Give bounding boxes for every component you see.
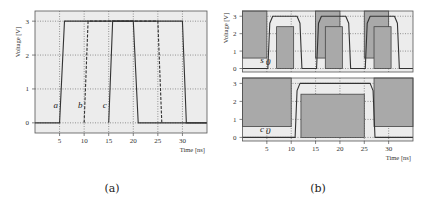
plot-b-s0-low-region bbox=[325, 27, 342, 69]
plot-b-xtick-label: 10 bbox=[288, 145, 296, 153]
plot-a-annotation-b: b bbox=[78, 100, 83, 110]
plot-b-c0-ytick-label: 2 bbox=[233, 98, 237, 106]
plot-b-s0-ytick-label: 2 bbox=[233, 30, 237, 38]
plot-b-c0-label-subscript: 0 bbox=[266, 126, 271, 136]
caption-a: (a) bbox=[104, 182, 119, 195]
plot-b-xtick-label: 5 bbox=[265, 145, 269, 153]
plot-a-xlabel: Time [ns] bbox=[180, 146, 205, 154]
plot-b-s0-low-region bbox=[277, 27, 294, 69]
plot-a-ylabel: Voltage [V] bbox=[14, 27, 22, 57]
plot-b-s0-high-region bbox=[243, 11, 267, 58]
plot-b-xtick-label: 15 bbox=[312, 145, 320, 153]
plot-a-ytick-label: 3 bbox=[26, 18, 30, 26]
plot-a-xtick-label: 30 bbox=[179, 137, 187, 145]
plot-b-c0-high-region bbox=[374, 78, 413, 127]
plot-a-xtick-label: 5 bbox=[58, 137, 62, 145]
plot-b-c0-label: c bbox=[260, 124, 264, 134]
plot-a-annotation-c: c bbox=[103, 100, 107, 110]
plot-b-c0-ytick-label: 1 bbox=[233, 116, 237, 124]
plot-b-s0-low-region bbox=[374, 27, 391, 69]
caption-b: (b) bbox=[310, 182, 326, 195]
plot-b-s0-label-subscript: 0 bbox=[266, 57, 271, 67]
figure: 510152025300123abcVoltage [V]Time [ns](a… bbox=[0, 0, 435, 204]
plot-a-xtick-label: 10 bbox=[81, 137, 89, 145]
plot-b-c0-ytick-label: 3 bbox=[233, 80, 237, 88]
plot-a-background bbox=[35, 11, 207, 133]
plot-b-c0-low-region bbox=[301, 94, 364, 137]
plot-a-ytick-label: 1 bbox=[26, 85, 30, 93]
plot-b-xtick-label: 20 bbox=[336, 145, 344, 153]
plot-b-c0-ytick-label: 0 bbox=[233, 134, 237, 142]
plot-a-annotation-a: a bbox=[53, 100, 58, 110]
plot-a-xtick-label: 15 bbox=[105, 137, 113, 145]
plot-b-ylabel: Voltage [V] bbox=[222, 13, 230, 43]
plot-b-s0-ytick-label: 3 bbox=[233, 13, 237, 21]
plot-b-s0-ytick-label: 0 bbox=[233, 65, 237, 73]
plot-b-xtick-label: 25 bbox=[361, 145, 369, 153]
plot-b-c0-high-region bbox=[243, 78, 292, 127]
plot-b-xtick-label: 30 bbox=[385, 145, 393, 153]
plot-a-xtick-label: 25 bbox=[154, 137, 162, 145]
plot-b-s0-ytick-label: 1 bbox=[233, 48, 237, 56]
plot-b-xlabel: Time [ns] bbox=[386, 154, 411, 162]
plot-a-ytick-label: 0 bbox=[26, 119, 30, 127]
plot-a-xtick-label: 20 bbox=[130, 137, 138, 145]
plot-a-ytick-label: 2 bbox=[26, 52, 30, 60]
plot-b-s0-label: s bbox=[260, 55, 264, 65]
